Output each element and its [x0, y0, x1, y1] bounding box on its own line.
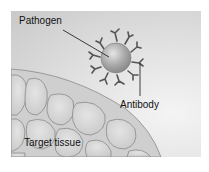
diagram-panel: Pathogen Antibody Target tissue: [11, 11, 201, 157]
pathogen: [89, 29, 143, 85]
antibody-label: Antibody: [120, 99, 159, 110]
illustration: [11, 11, 201, 157]
target-tissue-label: Target tissue: [24, 137, 81, 148]
pathogen-sphere: [101, 43, 131, 73]
pathogen-label: Pathogen: [19, 15, 62, 26]
pathogen-leader-line: [63, 30, 109, 57]
